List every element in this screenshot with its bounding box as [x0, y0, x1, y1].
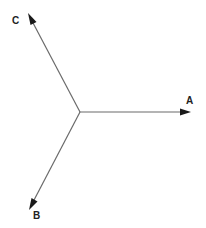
vector-b: B	[29, 112, 80, 221]
vector-b-label: B	[33, 210, 40, 221]
vector-a: A	[80, 95, 193, 116]
vector-c-label: C	[12, 15, 19, 26]
vector-b-line	[33, 112, 80, 202]
vector-c: C	[12, 13, 80, 112]
vector-diagram: A B C	[0, 0, 206, 228]
vector-a-arrowhead	[180, 109, 191, 116]
vector-a-label: A	[186, 95, 193, 106]
vector-c-arrowhead	[28, 13, 37, 25]
vector-c-line	[32, 21, 80, 112]
vector-b-arrowhead	[29, 198, 38, 210]
